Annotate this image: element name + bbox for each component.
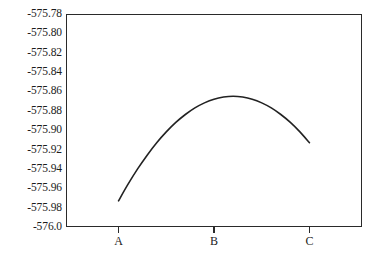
x-axis-tick-mark	[309, 227, 311, 233]
x-axis-tick-mark	[118, 227, 120, 233]
y-axis-tick-label: -575.90	[0, 124, 62, 136]
y-axis-tick-label: -575.98	[0, 202, 62, 214]
x-axis-tick-label: B	[194, 235, 234, 248]
y-axis-tick-label: -575.94	[0, 163, 62, 175]
data-curve	[66, 14, 362, 227]
x-axis-tick-label: A	[99, 235, 139, 248]
x-axis-tick-label: C	[289, 235, 329, 248]
x-axis-tick-mark	[213, 227, 215, 233]
y-axis-tick-label: -575.88	[0, 105, 62, 117]
y-axis-tick-label: -575.96	[0, 182, 62, 194]
chart-figure: -575.78-575.80-575.82-575.84-575.86-575.…	[0, 0, 376, 258]
y-axis-tick-label: -575.84	[0, 66, 62, 78]
y-axis-tick-label: -575.82	[0, 47, 62, 59]
y-axis-tick-label: -575.86	[0, 85, 62, 97]
cropped-caption-sliver	[4, 251, 334, 256]
curve-line	[119, 96, 310, 201]
y-axis-tick-label: -575.78	[0, 8, 62, 20]
y-axis-tick-label: -575.92	[0, 144, 62, 156]
y-axis-tick-labels: -575.78-575.80-575.82-575.84-575.86-575.…	[0, 0, 62, 258]
y-axis-tick-label: -575.80	[0, 27, 62, 39]
